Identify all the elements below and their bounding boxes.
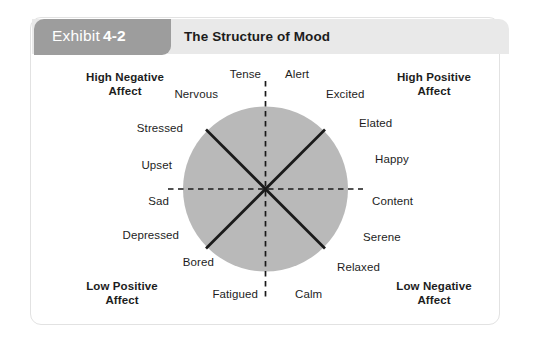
exhibit-page: Exhibit4-2 The Structure of Mood High Ne… <box>0 0 534 349</box>
mood-label-happy: Happy <box>375 153 409 165</box>
quadrant-label-line2: Affect <box>52 293 192 307</box>
mood-label-alert: Alert <box>285 68 309 80</box>
mood-label-fatigued: Fatigued <box>212 288 258 300</box>
mood-label-bored: Bored <box>183 256 214 268</box>
quadrant-label-line1: High Negative <box>55 70 195 84</box>
quadrant-label-line1: Low Positive <box>52 279 192 293</box>
quadrant-label-high-positive-affect: High Positive Affect <box>364 70 504 98</box>
quadrant-label-line1: Low Negative <box>364 279 504 293</box>
mood-label-sad: Sad <box>148 195 169 207</box>
quadrant-label-low-positive-affect: Low Positive Affect <box>52 279 192 307</box>
exhibit-tab-text: Exhibit4-2 <box>52 27 126 45</box>
mood-label-content: Content <box>372 195 413 207</box>
mood-label-calm: Calm <box>295 288 322 300</box>
quadrant-label-line1: High Positive <box>364 70 504 84</box>
mood-label-serene: Serene <box>363 231 401 243</box>
exhibit-number: 4-2 <box>103 27 126 44</box>
exhibit-number-tab: Exhibit4-2 <box>34 19 171 55</box>
mood-label-tense: Tense <box>230 68 261 80</box>
quadrant-label-low-negative-affect: Low Negative Affect <box>364 279 504 307</box>
mood-label-excited: Excited <box>326 88 364 100</box>
exhibit-header-band: Exhibit4-2 The Structure of Mood <box>32 19 509 54</box>
exhibit-label: Exhibit <box>52 27 100 44</box>
quadrant-label-line2: Affect <box>364 293 504 307</box>
mood-label-relaxed: Relaxed <box>337 261 380 273</box>
exhibit-title: The Structure of Mood <box>184 29 330 44</box>
mood-label-elated: Elated <box>359 117 392 129</box>
mood-label-depressed: Depressed <box>122 229 179 241</box>
quadrant-label-line2: Affect <box>364 84 504 98</box>
mood-label-upset: Upset <box>141 159 172 171</box>
mood-label-stressed: Stressed <box>137 122 183 134</box>
mood-label-nervous: Nervous <box>174 88 218 100</box>
